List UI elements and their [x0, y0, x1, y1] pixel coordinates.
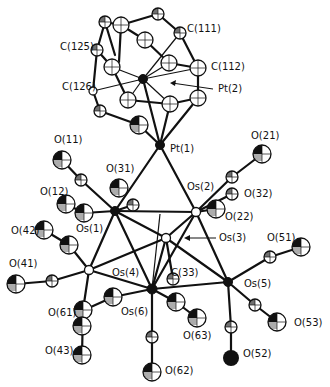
atom-o32 — [226, 188, 238, 200]
label-o42: O(42) — [11, 225, 39, 236]
label-c112: C(112) — [211, 61, 245, 72]
atom-o11 — [53, 151, 71, 169]
atom-o61 — [74, 301, 92, 319]
atom-c111 — [174, 27, 186, 39]
label-o63: O(63) — [183, 330, 211, 341]
label-o43: O(43) — [45, 345, 73, 356]
label-o32: O(32) — [244, 188, 272, 199]
label-os1: Os(1) — [76, 223, 103, 234]
atom-o41 — [7, 275, 25, 293]
molecular-structure-diagram: C(111) C(112) C(125) C(126) Pt(2) Pt(1) … — [0, 0, 330, 387]
atom-os1 — [111, 207, 120, 216]
atom-o62 — [143, 363, 161, 381]
label-o61: O(61) — [48, 307, 76, 318]
atom-o21 — [253, 145, 271, 163]
label-c111: C(111) — [187, 23, 221, 34]
atom-os2 — [192, 208, 201, 217]
atom-os3 — [162, 234, 171, 243]
label-o21: O(21) — [251, 130, 279, 141]
atom-os4 — [85, 266, 94, 275]
label-c126: C(126) — [62, 81, 96, 92]
atom-pt2 — [139, 75, 148, 84]
label-os3: Os(3) — [219, 232, 246, 243]
label-o62: O(62) — [165, 365, 193, 376]
label-o53: O(53) — [294, 317, 322, 328]
label-o12: O(12) — [40, 186, 68, 197]
label-c125: C(125) — [60, 41, 94, 52]
atom-o63 — [188, 309, 206, 327]
label-os2: Os(2) — [187, 181, 214, 192]
label-o11: O(11) — [54, 134, 82, 145]
label-o22: O(22) — [225, 211, 253, 222]
atom-o22 — [207, 200, 225, 218]
label-o51: O(51) — [267, 232, 295, 243]
atom-o52 — [223, 350, 239, 366]
atom-c112 — [190, 60, 206, 76]
label-os6: Os(6) — [121, 306, 148, 317]
label-pt2: Pt(2) — [218, 83, 242, 94]
label-c33: C(33) — [171, 267, 199, 278]
label-pt1: Pt(1) — [170, 143, 194, 154]
atom-os6 — [147, 284, 157, 294]
label-o41: O(41) — [9, 258, 37, 269]
label-o52: O(52) — [243, 348, 271, 359]
atom-o43 — [73, 346, 91, 364]
atom-o53 — [268, 313, 286, 331]
atom-o12 — [57, 195, 75, 213]
label-o31: O(31) — [106, 163, 134, 174]
label-os5: Os(5) — [244, 278, 271, 289]
label-os4: Os(4) — [112, 267, 139, 278]
atom-os5 — [224, 278, 233, 287]
atom-pt1 — [156, 141, 165, 150]
atom-o31 — [110, 179, 128, 197]
